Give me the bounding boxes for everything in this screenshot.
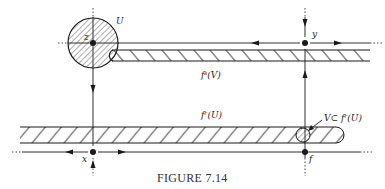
label-v-subset: V⊂ fʳ(U) [324, 113, 362, 123]
arrow-right-icon [334, 41, 342, 46]
region-v [296, 128, 310, 142]
point-x [90, 149, 96, 155]
point-y [302, 40, 308, 46]
figure-caption: FIGURE 7.14 [157, 171, 228, 185]
label-y: y [311, 29, 318, 39]
arrow-down-icon [303, 19, 308, 27]
unstable-manifold-line [12, 150, 372, 155]
arrow-up-icon [303, 70, 308, 78]
point-f [302, 149, 308, 155]
figure-diagram: U z y fˢ(V) fʳ(U) V⊂ fʳ(U) x f FIGURE 7.… [0, 0, 385, 189]
arrow-up-icon [91, 160, 96, 168]
label-z: z [83, 32, 89, 42]
label-x: x [82, 154, 87, 164]
arrow-left-icon [251, 41, 259, 46]
band-fs-v [109, 50, 370, 61]
label-f: f [308, 154, 314, 164]
label-fs-v: fˢ(V) [200, 70, 221, 80]
point-z [90, 40, 96, 46]
arrow-down-icon [91, 85, 96, 93]
arrow-right-icon [118, 150, 126, 155]
arrow-left-icon [65, 150, 73, 155]
label-u: U [116, 16, 124, 26]
label-fr-u: fʳ(U) [200, 110, 223, 120]
